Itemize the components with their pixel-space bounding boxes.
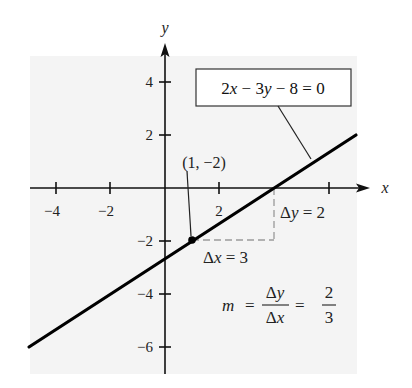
equation-label: 2x − 3y − 8 = 0: [221, 79, 324, 98]
x-tick-label: 2: [215, 203, 223, 219]
y-axis-label: y: [159, 19, 169, 37]
y-tick-label: −4: [137, 286, 153, 302]
x-axis-label: x: [380, 179, 388, 196]
slope-m: m: [222, 296, 234, 315]
slope-equals-1: =: [245, 296, 255, 315]
highlighted-point: [188, 236, 196, 244]
y-tick-label: −2: [137, 233, 153, 249]
point-label: (1, −2): [182, 154, 226, 172]
y-tick-label: 4: [146, 74, 154, 90]
slope-numerator: Δy: [266, 283, 285, 302]
x-tick-label: −4: [44, 203, 60, 219]
slope-value-denominator: 3: [325, 308, 334, 327]
delta-x-label: Δx = 3: [203, 248, 248, 267]
slope-value-numerator: 2: [325, 283, 334, 302]
slope-denominator: Δx: [266, 308, 285, 327]
x-tick-label: −2: [98, 203, 114, 219]
delta-y-label: Δy = 2: [280, 203, 325, 222]
y-tick-label: −6: [137, 339, 153, 355]
slope-equals-2: =: [295, 296, 305, 315]
graph-canvas: y x −4 −2 2 4 2 −2 −4 −6 2x − 3y − 8 = 0…: [0, 0, 412, 388]
y-tick-label: 2: [146, 127, 154, 143]
